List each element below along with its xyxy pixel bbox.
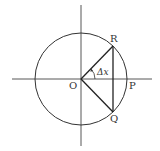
label-angle: Δx [96,67,109,77]
label-O: O [69,80,77,91]
unit-circle-diagram: O P R Q Δx [0,0,160,151]
label-Q: Q [110,113,118,124]
label-P: P [129,80,136,91]
label-R: R [110,33,118,44]
segment-OQ [81,79,113,112]
